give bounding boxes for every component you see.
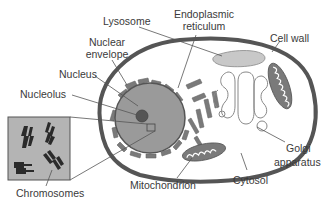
label-golgi-line1: Golgi (286, 143, 311, 154)
cell-diagram: Lysosome Nuclear envelope Nucleus Nucleo… (0, 0, 330, 205)
label-nucleolus: Nucleolus (20, 89, 66, 100)
label-mitochondrion: Mitochondrion (130, 180, 196, 191)
label-endoplasmic-reticulum-line1: Endoplasmic (170, 9, 238, 20)
nucleus (115, 83, 185, 153)
label-nucleus: Nucleus (59, 69, 97, 80)
label-nuclear-envelope-line1: Nuclear (76, 37, 138, 48)
cell-illustration (0, 0, 330, 205)
nucleolus (136, 110, 148, 122)
label-cytosol: Cytosol (233, 175, 268, 186)
label-endoplasmic-reticulum-line2: reticulum (170, 21, 238, 32)
chromosome-inset (8, 117, 70, 180)
label-golgi-line2: apparatus (274, 157, 321, 168)
label-nuclear-envelope-line2: envelope (76, 49, 138, 60)
label-chromosomes: Chromosomes (16, 188, 84, 199)
label-cell-wall: Cell wall (270, 33, 309, 44)
label-lysosome: Lysosome (103, 16, 150, 27)
